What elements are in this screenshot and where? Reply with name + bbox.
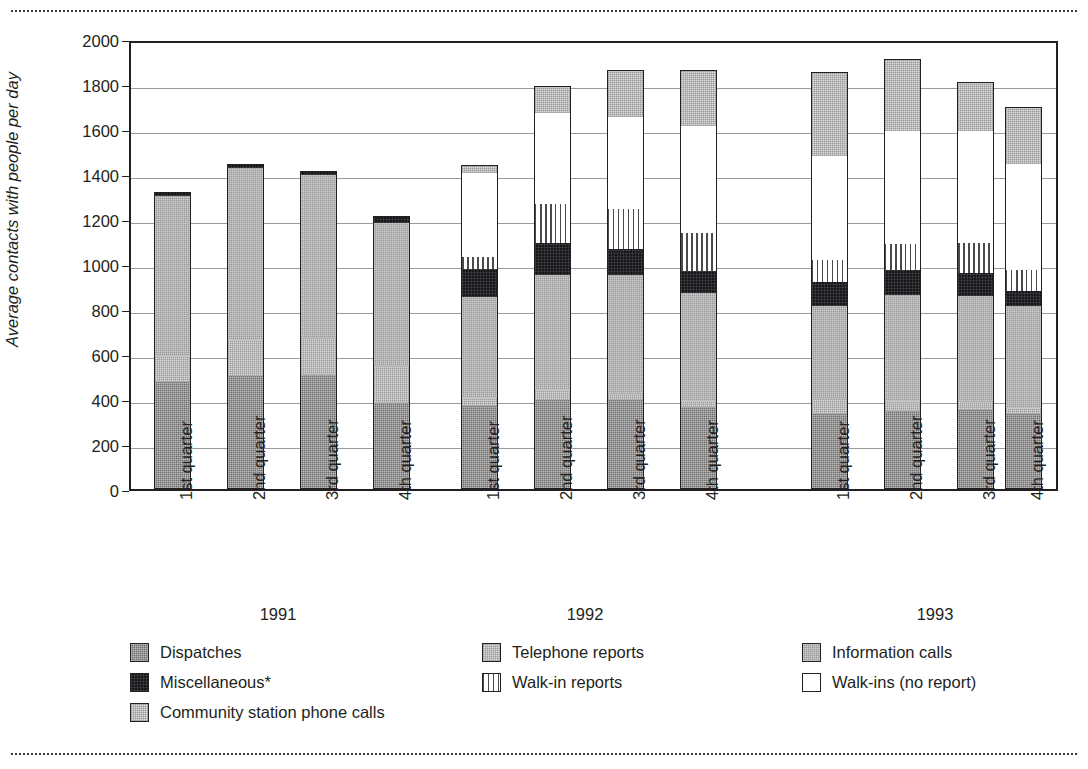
bar-segment-misc[interactable]: [534, 242, 571, 275]
bar-segment-walkins[interactable]: [461, 172, 498, 256]
bar-segment-community[interactable]: [680, 70, 717, 126]
y-tick-label-1600: 1600: [59, 123, 119, 140]
bar-segment-telephone[interactable]: [1005, 407, 1042, 414]
legend-label-walkins: Walk-ins (no report): [832, 673, 976, 692]
legend-item-walkinrep[interactable]: Walk-in reports: [482, 669, 644, 695]
y-tick-label-400: 400: [59, 393, 119, 410]
x-tick-label-1991-1st-quarter: 1st quarter: [177, 421, 196, 500]
bar-segment-walkins[interactable]: [680, 125, 717, 233]
bar-segment-misc[interactable]: [227, 164, 264, 169]
y-tick-label-1400: 1400: [59, 168, 119, 185]
bar-segment-walkinrep[interactable]: [607, 208, 644, 249]
y-tick-label-800: 800: [59, 303, 119, 320]
bar-segment-walkins[interactable]: [534, 112, 571, 204]
y-tick-label-600: 600: [59, 348, 119, 365]
bar-segment-information[interactable]: [811, 305, 848, 398]
legend-item-dispatches[interactable]: Dispatches: [130, 639, 385, 665]
legend-item-misc[interactable]: Miscellaneous*: [130, 669, 385, 695]
legend-label-dispatches: Dispatches: [160, 643, 242, 662]
bar-segment-telephone[interactable]: [534, 389, 571, 400]
x-tick-label-1993-3rd-quarter: 3rd quarter: [980, 419, 999, 500]
y-tick-mark-1000: [122, 266, 129, 267]
legend-swatch-telephone-icon: [482, 643, 501, 662]
bar-segment-information[interactable]: [227, 167, 264, 340]
bar-segment-information[interactable]: [461, 296, 498, 397]
bar-segment-community[interactable]: [957, 82, 994, 130]
bar-segment-telephone[interactable]: [957, 400, 994, 410]
legend-swatch-community-icon: [130, 703, 149, 722]
bar-segment-walkinrep[interactable]: [534, 203, 571, 244]
bar-segment-community[interactable]: [811, 72, 848, 156]
bar-segment-misc[interactable]: [811, 281, 848, 307]
bar-segment-telephone[interactable]: [154, 355, 191, 382]
bar-segment-walkinrep[interactable]: [957, 242, 994, 272]
bar-segment-walkins[interactable]: [884, 130, 921, 245]
legend-label-information: Information calls: [832, 643, 952, 662]
x-tick-label-1993-2nd-quarter: 2nd quarter: [907, 416, 926, 500]
bar-segment-telephone[interactable]: [680, 400, 717, 407]
bar-segment-information[interactable]: [957, 295, 994, 401]
bar-segment-walkins[interactable]: [811, 155, 848, 260]
legend-swatch-dispatches-icon: [130, 643, 149, 662]
bar-segment-telephone[interactable]: [884, 400, 921, 411]
bar-segment-misc[interactable]: [154, 192, 191, 197]
bar-segment-walkinrep[interactable]: [811, 259, 848, 282]
bar-segment-community[interactable]: [461, 165, 498, 173]
bar-segment-telephone[interactable]: [607, 392, 644, 400]
legend-item-community[interactable]: Community station phone calls: [130, 699, 385, 725]
bar-segment-misc[interactable]: [607, 248, 644, 275]
bar-segment-walkins[interactable]: [1005, 163, 1042, 270]
group-label-1993: 1993: [895, 605, 975, 624]
y-tick-label-200: 200: [59, 438, 119, 455]
bar-segment-misc[interactable]: [373, 216, 410, 223]
group-label-1992: 1992: [545, 605, 625, 624]
bar-segment-information[interactable]: [373, 222, 410, 366]
bar-segment-walkinrep[interactable]: [461, 256, 498, 270]
x-tick-label-1991-3rd-quarter: 3rd quarter: [323, 419, 342, 500]
bar-segment-misc[interactable]: [680, 270, 717, 293]
legend-item-information[interactable]: Information calls: [802, 639, 976, 665]
bar-segment-information[interactable]: [884, 294, 921, 401]
bar-segment-misc[interactable]: [1005, 290, 1042, 307]
bar-segment-community[interactable]: [1005, 107, 1042, 164]
bar-segment-telephone[interactable]: [300, 337, 337, 375]
bar-segment-information[interactable]: [1005, 305, 1042, 407]
y-tick-mark-200: [122, 446, 129, 447]
bar-segment-information[interactable]: [154, 195, 191, 356]
bar-segment-walkins[interactable]: [607, 116, 644, 209]
y-tick-label-2000: 2000: [59, 33, 119, 50]
x-tick-label-1991-4th-quarter: 4th quarter: [396, 420, 415, 500]
figure-page: Average contacts with people per day 020…: [0, 0, 1088, 769]
x-tick-label-1993-4th-quarter: 4th quarter: [1028, 420, 1047, 500]
bar-segment-community[interactable]: [534, 86, 571, 113]
bar-segment-information[interactable]: [534, 274, 571, 390]
bar-segment-community[interactable]: [607, 70, 644, 117]
legend-item-walkins[interactable]: Walk-ins (no report): [802, 669, 976, 695]
bar-segment-walkins[interactable]: [957, 130, 994, 244]
y-tick-mark-1200: [122, 221, 129, 222]
bar-segment-telephone[interactable]: [227, 339, 264, 376]
bar-segment-community[interactable]: [884, 59, 921, 131]
bar-segment-information[interactable]: [300, 174, 337, 338]
legend-item-telephone[interactable]: Telephone reports: [482, 639, 644, 665]
y-axis-title: Average contacts with people per day: [3, 30, 22, 390]
bar-segment-telephone[interactable]: [811, 398, 848, 414]
bar-segment-information[interactable]: [680, 292, 717, 401]
legend-column-3: Information callsWalk-ins (no report): [802, 639, 976, 699]
bar-segment-misc[interactable]: [957, 272, 994, 297]
legend-swatch-walkins-icon: [802, 673, 821, 692]
bar-segment-misc[interactable]: [300, 171, 337, 174]
legend-label-telephone: Telephone reports: [512, 643, 644, 662]
bar-segment-misc[interactable]: [884, 269, 921, 295]
bar-segment-telephone[interactable]: [373, 365, 410, 403]
legend-swatch-misc-icon: [130, 673, 149, 692]
y-tick-mark-1400: [122, 176, 129, 177]
bar-segment-information[interactable]: [607, 274, 644, 393]
bar-segment-walkinrep[interactable]: [680, 232, 717, 271]
bar-segment-walkinrep[interactable]: [884, 243, 921, 270]
legend-column-1: DispatchesMiscellaneous*Community statio…: [130, 639, 385, 729]
bar-segment-telephone[interactable]: [461, 397, 498, 406]
bar-segment-misc[interactable]: [461, 268, 498, 297]
y-tick-mark-800: [122, 311, 129, 312]
bar-segment-walkinrep[interactable]: [1005, 269, 1042, 290]
